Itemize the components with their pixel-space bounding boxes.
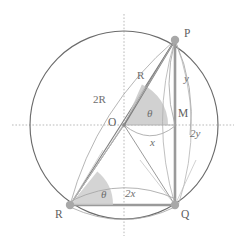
label-arc-y: y — [184, 73, 189, 84]
vertex-r-dot — [66, 201, 74, 209]
arc-x — [124, 125, 175, 136]
inscribed-angle-sector — [70, 171, 113, 205]
fan-line-q2 — [175, 160, 196, 205]
label-vertex-q: Q — [181, 209, 189, 221]
label-arc-x: x — [150, 137, 155, 148]
center-o-dot — [122, 123, 126, 127]
label-radius-r: R — [137, 70, 144, 81]
arc-p-to-q-outer — [175, 40, 191, 206]
vertex-p-dot — [171, 36, 179, 44]
label-vertex-p: P — [184, 28, 190, 40]
fan-line-q1 — [140, 160, 175, 205]
label-arc-2x: 2x — [125, 188, 135, 199]
arc-2y — [175, 40, 191, 135]
label-diameter-2r: 2R — [93, 94, 106, 105]
label-vertex-r: R — [55, 209, 63, 221]
vertex-q-dot — [171, 201, 179, 209]
arc-rq-below — [70, 207, 175, 220]
label-center-o: O — [108, 117, 116, 129]
label-point-m: M — [178, 108, 188, 120]
label-angle-theta-inscribed: θ — [101, 189, 106, 200]
label-arc-2y: 2y — [190, 128, 200, 139]
figure-canvas — [0, 0, 242, 245]
central-angle-sector — [124, 84, 168, 125]
label-angle-theta-center: θ — [147, 108, 152, 119]
geometry-figure: P O M Q R R 2R θ θ x 2x y 2y — [0, 0, 242, 245]
